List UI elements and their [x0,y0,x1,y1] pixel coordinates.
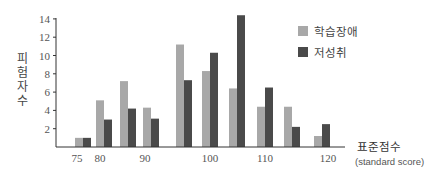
y-tick-label: 2 [45,123,51,135]
legend: 학습장애저성취 [298,25,358,60]
bar-learning-disability [96,100,104,147]
y-axis-label-char: 수 [17,94,28,108]
x-axis: 758090100110120 [56,147,345,164]
bar-learning-disability [314,136,322,147]
x-tick-label: 90 [140,152,152,164]
y-axis-label-char: 자 [17,80,28,94]
bar-low-achievement [128,109,136,147]
bar-low-achievement [83,138,91,147]
x-axis-subtitle: (standard score) [355,156,424,167]
x-tick-label: 80 [95,152,107,164]
x-tick-label: 110 [257,152,274,164]
x-axis-label: 표준점수 (standard score) [355,140,424,167]
y-tick-label: 14 [39,13,51,25]
bar-low-achievement [151,119,159,147]
y-tick-label: 8 [45,68,51,80]
legend-label: 저성취 [314,46,347,60]
bar-learning-disability [176,45,184,147]
bar-low-achievement [104,120,112,147]
legend-label: 학습장애 [314,25,358,39]
bar-low-achievement [292,127,300,147]
y-tick-label: 4 [45,104,51,116]
x-tick-label: 120 [320,152,337,164]
y-axis-label: 피험자수 [17,52,28,108]
bar-learning-disability [202,71,210,147]
x-tick-label: 75 [72,152,84,164]
y-tick-label: 12 [39,31,50,43]
bar-learning-disability [229,88,237,147]
bars [75,15,330,147]
bar-low-achievement [210,53,218,147]
x-axis-title: 표준점수 [357,140,401,154]
y-axis: 2468101214 [39,13,56,147]
bar-chart: 2468101214 758090100110120 피험자수 학습장애저성취 … [0,0,439,175]
bar-learning-disability [284,107,292,147]
bar-learning-disability [143,108,151,147]
legend-swatch [298,26,308,36]
y-axis-label-char: 피 [17,52,28,66]
legend-swatch [298,47,308,57]
y-tick-label: 6 [45,86,51,98]
bar-low-achievement [237,15,245,147]
bar-low-achievement [265,88,273,147]
bar-learning-disability [120,81,128,147]
bar-low-achievement [322,124,330,147]
bar-low-achievement [184,80,192,147]
bar-learning-disability [75,138,83,147]
y-tick-label: 10 [39,50,51,62]
x-tick-label: 100 [202,152,219,164]
y-axis-label-char: 험 [17,66,28,80]
bar-learning-disability [257,107,265,147]
